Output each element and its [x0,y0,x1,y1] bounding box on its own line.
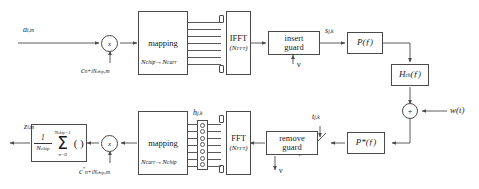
sigma-icon: Σ [57,135,68,152]
channel-equalizer-taps[interactable] [197,120,208,170]
multiply-icon: x [108,140,111,148]
despread-summation-block[interactable]: 1 Nchip Nchip−1 Σ n=0 ( ) [31,124,87,162]
remove-guard-nu-label: ν [279,166,283,175]
despreading-code-label: c*n+iNchip,m [79,166,110,176]
rx-output-label: zi,m [24,122,34,131]
fft-block[interactable]: FFT (NFFT) [226,111,251,175]
summation-operator: Nchip−1 Σ n=0 [55,130,71,157]
tap-node [200,162,205,167]
noise-label: w(t) [450,105,465,115]
channel-estimate-label: hj,k [193,108,202,117]
pulse-filter-label: P(ƒ) [357,38,373,47]
channel-response-block[interactable]: Hch(ƒ) [391,64,429,86]
tx-sp-converter-bottom-icon [219,65,224,73]
summation-argument: ( ) [74,137,84,149]
tap-node [200,142,205,147]
tap-node [200,129,205,134]
multiply-icon: x [108,40,111,48]
spreading-multiplier[interactable]: x [101,35,118,52]
despreading-multiplier[interactable]: x [101,135,118,152]
tap-node [200,149,205,154]
rx-ps-converter-top-icon [219,115,224,123]
plus-icon: + [408,107,413,116]
tx-signal-label: sj,k [325,26,334,35]
spreading-code-label: cn+iNchip,m [81,66,109,75]
normalization-factor: 1 Nchip [34,134,51,152]
matched-filter-block[interactable]: P*(ƒ) [347,132,385,154]
tap-node [200,156,205,161]
fft-title: FFT [231,134,246,143]
block-diagram-canvas: ai,m x cn+iNchip,m mapping Nchip→Ncarr I… [0,0,479,189]
tx-mapping-title: mapping [148,39,178,48]
tap-node [200,123,205,128]
fft-size: (NFFT) [229,145,247,152]
rx-mapping-title: mapping [148,139,178,148]
rx-mapping-subscript: Ncarr→Nchip [141,158,177,166]
tap-node [200,136,205,141]
tx-mapping-subscript: Nchip→Ncarr [141,58,177,66]
remove-guard-line2: guard [282,143,301,152]
tx-parallel-bus [188,22,221,64]
channel-filter-label: Hch(ƒ) [399,70,421,79]
matched-filter-label: P*(ƒ) [356,138,377,147]
insert-guard-block[interactable]: insert guard [268,31,320,55]
ifft-size: (NFFT) [229,45,247,52]
pulse-shaping-filter-block[interactable]: P(ƒ) [347,32,383,54]
noise-adder[interactable]: + [402,103,418,119]
ifft-block[interactable]: IFFT (NFFT) [226,11,251,75]
tx-sp-converter-top-icon [219,15,224,23]
rx-parallel-bus [188,124,198,166]
ifft-title: IFFT [230,34,247,43]
remove-guard-block[interactable]: remove guard [266,131,318,155]
tx-input-label: ai,m [23,25,34,34]
insert-guard-nu-label: ν [297,60,301,69]
sampler-clock-label: tj,k [312,112,320,121]
rx-parallel-bus-right [208,124,221,166]
insert-guard-line2: guard [284,43,303,52]
